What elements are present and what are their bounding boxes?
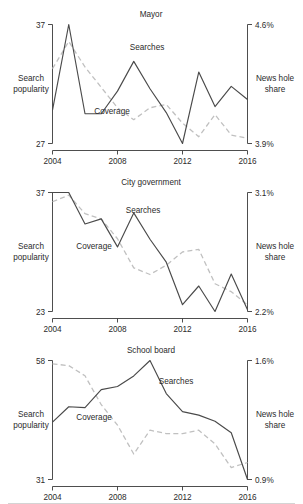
right-axis-min-label: 3.9% xyxy=(255,140,274,149)
right-axis-title-line1: News hole xyxy=(256,410,295,419)
left-axis-title-line1: Search xyxy=(18,410,44,419)
left-axis-city-government xyxy=(48,193,53,312)
right-axis-max-label: 3.1% xyxy=(255,189,274,198)
x-tick-2016: 2016 xyxy=(238,325,257,334)
right-axis-min-label: 0.9% xyxy=(255,476,274,485)
left-axis-max-label: 37 xyxy=(36,189,46,198)
left-axis-title-line2: popularity xyxy=(13,421,49,430)
x-tick-2016: 2016 xyxy=(238,493,257,502)
series-annotation-searches: Searches xyxy=(126,206,161,215)
x-tick-2016: 2016 xyxy=(238,157,257,166)
x-tick-2012: 2012 xyxy=(173,157,192,166)
x-tick-2004: 2004 xyxy=(43,325,62,334)
left-axis-min-label: 23 xyxy=(36,308,46,317)
x-tick-2012: 2012 xyxy=(173,325,192,334)
right-axis-mayor xyxy=(248,25,253,144)
x-tick-2008: 2008 xyxy=(108,325,127,334)
right-axis-min-label: 2.2% xyxy=(255,308,274,317)
chart-title: School board xyxy=(127,346,176,355)
left-axis-min-label: 27 xyxy=(36,140,46,149)
right-axis-title-line2: share xyxy=(265,421,286,430)
left-axis-school-board xyxy=(48,361,53,480)
x-tick-2008: 2008 xyxy=(108,157,127,166)
series-annotation-searches: Searches xyxy=(130,43,165,52)
right-axis-title-line1: News hole xyxy=(256,242,295,251)
series-annotation-coverage: Coverage xyxy=(76,242,112,251)
chart-svg-mayor: Mayor 37 27 Search popularity 4.6% 3.9% … xyxy=(0,0,303,168)
x-tick-2004: 2004 xyxy=(43,493,62,502)
right-axis-city-government xyxy=(248,193,253,312)
series-annotation-coverage: Coverage xyxy=(94,107,130,116)
x-axis-school-board xyxy=(53,487,248,491)
chart-title: Mayor xyxy=(140,10,163,19)
left-axis-min-label: 31 xyxy=(36,476,46,485)
left-axis-max-label: 58 xyxy=(36,357,46,366)
x-tick-2004: 2004 xyxy=(43,157,62,166)
left-axis-mayor xyxy=(48,25,53,144)
x-axis-city-government xyxy=(53,319,248,323)
right-axis-max-label: 1.6% xyxy=(255,357,274,366)
right-axis-school-board xyxy=(248,361,253,480)
left-axis-max-label: 37 xyxy=(36,21,46,30)
chart-panel-school-board: School board 58 31 Search popularity 1.6… xyxy=(0,336,303,504)
left-axis-title-line1: Search xyxy=(18,242,44,251)
chart-panel-city-government: City government 37 23 Search popularity … xyxy=(0,168,303,336)
right-axis-max-label: 4.6% xyxy=(255,21,274,30)
left-axis-title-line2: popularity xyxy=(13,253,49,262)
x-tick-2012: 2012 xyxy=(173,493,192,502)
right-axis-title-line1: News hole xyxy=(256,74,295,83)
chart-svg-school-board: School board 58 31 Search popularity 1.6… xyxy=(0,336,303,504)
series-annotation-coverage: Coverage xyxy=(76,413,112,422)
chart-panel-mayor: Mayor 37 27 Search popularity 4.6% 3.9% … xyxy=(0,0,303,168)
right-axis-title-line2: share xyxy=(265,253,286,262)
coverage-line xyxy=(53,42,248,139)
chart-svg-city-government: City government 37 23 Search popularity … xyxy=(0,168,303,336)
chart-title: City government xyxy=(121,178,181,187)
left-axis-title-line1: Search xyxy=(18,74,44,83)
x-tick-2008: 2008 xyxy=(108,493,127,502)
x-axis-mayor xyxy=(53,151,248,155)
right-axis-title-line2: share xyxy=(265,85,286,94)
series-annotation-searches: Searches xyxy=(159,377,194,386)
left-axis-title-line2: popularity xyxy=(13,85,49,94)
